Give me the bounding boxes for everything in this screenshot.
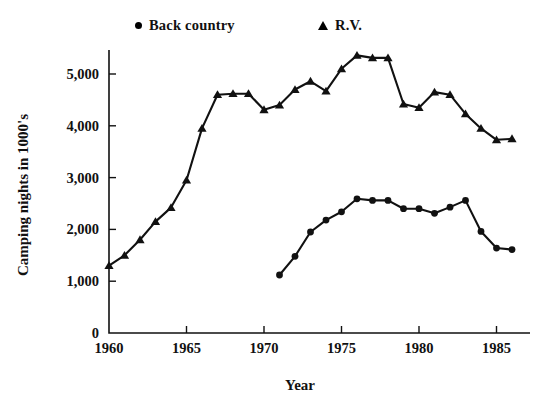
data-point-dot [307,229,314,236]
x-axis-ticks: 196019651970197519801985 [95,326,512,356]
x-axis-tick-label: 1975 [327,340,356,356]
data-point-dot [400,205,407,212]
data-point-dot [447,204,454,211]
plot-area: 01,0002,0003,0004,0005,000 1960196519701… [0,0,552,397]
data-point-dot [276,272,283,279]
chart-figure: Back country R.V. 01,0002,0003,0004,0005… [0,0,552,397]
x-axis-tick-label: 1985 [482,340,511,356]
x-axis-tick-label: 1970 [250,340,279,356]
data-point-dot [323,217,330,224]
y-axis-tick-label: 4,000 [66,118,99,134]
data-point-triangle [182,176,191,184]
y-axis-tick-label: 0 [92,325,99,341]
data-point-dot [338,208,345,215]
data-point-dot [509,246,516,253]
x-axis-tick-label: 1980 [405,340,434,356]
y-axis-tick-label: 2,000 [66,221,99,237]
data-point-triangle [306,77,315,85]
data-point-dot [385,197,392,204]
series-line [280,199,513,275]
x-axis-tick-label: 1960 [95,340,124,356]
y-axis-tick-label: 1,000 [66,273,99,289]
series-back-country [276,195,515,278]
x-axis-title: Year [285,377,315,393]
data-point-triangle [166,203,175,211]
data-point-triangle [290,85,299,93]
data-point-dot [354,195,361,202]
data-point-dot [416,205,423,212]
data-point-triangle [399,100,408,108]
y-axis-tick-label: 3,000 [66,170,99,186]
axes: 01,0002,0003,0004,0005,000 1960196519701… [15,50,530,393]
data-point-triangle [197,124,206,132]
series-r-v [104,51,516,269]
data-point-dot [493,245,500,252]
axis-lines [109,50,530,333]
x-axis-tick-label: 1965 [172,340,201,356]
y-axis-title: Camping nights in 1000's [15,114,31,276]
data-point-dot [462,197,469,204]
data-point-dot [478,228,485,235]
data-point-dot [431,210,438,217]
data-point-dot [292,253,299,260]
y-axis-tick-label: 5,000 [66,66,99,82]
data-point-triangle [352,51,361,59]
data-point-dot [369,197,376,204]
data-series-layer [104,51,516,278]
